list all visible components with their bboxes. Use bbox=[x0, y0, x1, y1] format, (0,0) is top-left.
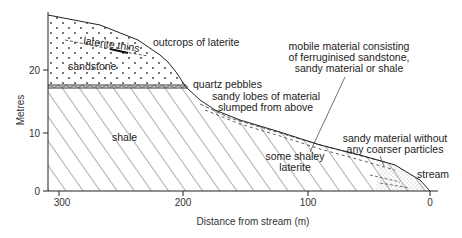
x-axis-label: Distance from stream (m) bbox=[197, 216, 310, 227]
quartz-pebbles-label: quartz pebbles bbox=[193, 78, 262, 90]
outcrops-label: outcrops of laterite bbox=[153, 36, 240, 48]
x-tick-300: 300 bbox=[54, 197, 71, 208]
sandstone-label: sandstone bbox=[68, 60, 117, 72]
stream-label: stream bbox=[417, 168, 449, 180]
x-tick-0: 0 bbox=[427, 197, 433, 208]
sandy-lobes-label-2: slumped from above bbox=[218, 101, 313, 113]
x-tick-100: 100 bbox=[300, 197, 317, 208]
y-axis-label: Metres bbox=[15, 95, 26, 126]
shaley-laterite-label-2: laterite bbox=[279, 161, 311, 173]
sandy-material-label-2: any coarser particles bbox=[347, 143, 444, 155]
y-axis: 20 10 0 Metres bbox=[15, 12, 48, 197]
y-tick-20: 20 bbox=[29, 65, 41, 76]
x-tick-200: 200 bbox=[175, 197, 192, 208]
y-tick-0: 0 bbox=[34, 186, 40, 197]
x-axis: 300 200 100 0 Distance from stream (m) bbox=[48, 191, 438, 227]
y-tick-10: 10 bbox=[29, 128, 41, 139]
shale-label: shale bbox=[112, 131, 137, 143]
mobile-material-leader bbox=[310, 77, 345, 152]
mobile-material-label-3: sandy material or shale bbox=[295, 62, 404, 74]
cross-section-diagram: 20 10 0 Metres 300 200 100 0 Distance fr… bbox=[0, 0, 462, 238]
